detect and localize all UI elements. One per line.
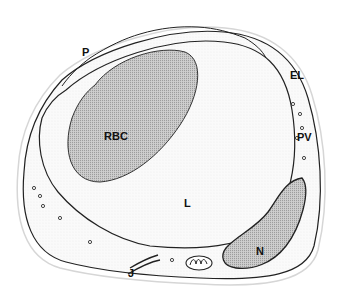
label-red-blood-cell: RBC — [104, 131, 128, 142]
label-nucleus: N — [256, 246, 264, 257]
label-pericyte: P — [82, 47, 89, 58]
diagram-drawing — [0, 0, 347, 297]
label-endothelial-layer: EL — [290, 70, 304, 81]
label-junction: J — [128, 268, 134, 279]
capillary-diagram: P EL PV RBC L N J — [0, 0, 347, 297]
label-lumen: L — [184, 198, 191, 209]
label-pinocytotic-vesicles: PV — [297, 132, 312, 143]
mitochondrion — [186, 256, 212, 270]
